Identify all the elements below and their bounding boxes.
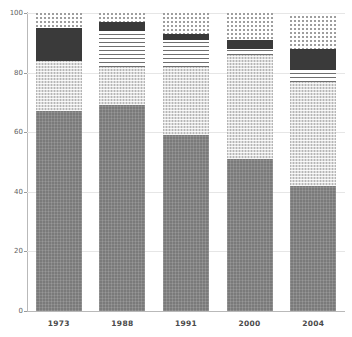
y-tick-label: 20 bbox=[14, 247, 23, 255]
bar-segment-1973-segment-5-dots bbox=[36, 13, 82, 28]
y-tick-20: 20 bbox=[0, 251, 27, 252]
bar-segment-2004-segment-3-horizontal-stripes bbox=[290, 70, 336, 82]
bar-segment-2004-segment-4-solid-dark bbox=[290, 49, 336, 70]
bar-segment-1973-segment-4-solid-dark bbox=[36, 28, 82, 61]
bar-segment-2004-segment-5-dots bbox=[290, 16, 336, 49]
bar-1973 bbox=[36, 0, 82, 337]
bar-1991 bbox=[163, 0, 209, 337]
bar-segment-2004-segment-1-dark-gray-speckle bbox=[290, 186, 336, 311]
y-tick-label: 0 bbox=[19, 307, 23, 315]
bar-2000 bbox=[227, 0, 273, 337]
bar-segment-1991-segment-2-light-crosshatch bbox=[163, 67, 209, 136]
bar-segment-1988-segment-2-light-crosshatch bbox=[99, 67, 145, 106]
bar-segment-2000-segment-4-solid-dark bbox=[227, 40, 273, 49]
bar-segment-1973-segment-1-dark-gray-speckle bbox=[36, 111, 82, 311]
y-tick-mark bbox=[24, 311, 27, 312]
bar-segment-1991-segment-4-solid-dark bbox=[163, 34, 209, 40]
bar-segment-1988-segment-1-dark-gray-speckle bbox=[99, 105, 145, 311]
bar-segment-1991-segment-3-horizontal-stripes bbox=[163, 40, 209, 67]
y-tick-100: 100 bbox=[0, 13, 27, 14]
bar-segment-2000-segment-1-dark-gray-speckle bbox=[227, 159, 273, 311]
bar-segment-1991-segment-5-dots bbox=[163, 13, 209, 34]
bar-segment-2000-segment-3-horizontal-stripes bbox=[227, 49, 273, 55]
bar-segment-2000-segment-5-dots bbox=[227, 13, 273, 40]
bar-segment-2000-segment-2-light-crosshatch bbox=[227, 55, 273, 159]
bar-1988 bbox=[99, 0, 145, 337]
bar-segment-1988-segment-3-horizontal-stripes bbox=[99, 31, 145, 67]
bar-2004 bbox=[290, 0, 336, 337]
stacked-bar-chart: 100806040200 19731988199120002004 bbox=[0, 0, 352, 337]
y-tick-60: 60 bbox=[0, 132, 27, 133]
y-tick-label: 100 bbox=[10, 9, 23, 17]
bar-segment-1988-segment-5-dots bbox=[99, 13, 145, 22]
y-tick-label: 80 bbox=[14, 69, 23, 77]
y-tick-label: 60 bbox=[14, 128, 23, 136]
y-tick-80: 80 bbox=[0, 73, 27, 74]
y-tick-label: 40 bbox=[14, 188, 23, 196]
bar-segment-2004-segment-2-light-crosshatch bbox=[290, 82, 336, 186]
bar-segment-1988-segment-4-solid-dark bbox=[99, 22, 145, 31]
bar-segment-1991-segment-1-dark-gray-speckle bbox=[163, 135, 209, 311]
y-tick-0: 0 bbox=[0, 311, 27, 312]
y-tick-40: 40 bbox=[0, 192, 27, 193]
bar-segment-1973-segment-2-light-crosshatch bbox=[36, 61, 82, 112]
